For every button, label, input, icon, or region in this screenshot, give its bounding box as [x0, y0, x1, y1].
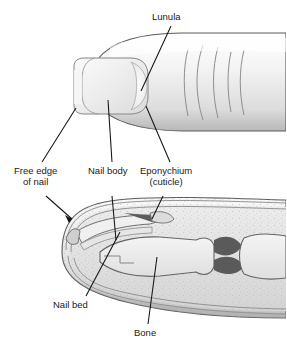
label-eponychium: Eponychium (cuticle): [140, 165, 192, 187]
leader-free-edge-top: [42, 108, 76, 162]
label-lunula: Lunula: [152, 11, 181, 22]
label-free-edge-line2: of nail: [14, 176, 57, 187]
label-nail-body: Nail body: [88, 165, 128, 176]
label-free-edge-line1: Free edge: [14, 165, 57, 176]
label-bone-text: Bone: [134, 327, 156, 338]
label-nail-body-text: Nail body: [88, 165, 128, 176]
label-free-edge-of-nail: Free edge of nail: [14, 165, 57, 187]
label-eponychium-line2: (cuticle): [140, 176, 192, 187]
free-edge-strip: [74, 70, 82, 104]
label-nail-bed-text: Nail bed: [53, 299, 88, 310]
leader-free-edge-section: [46, 196, 72, 219]
dorsal-view-group: [74, 33, 286, 146]
label-nail-bed: Nail bed: [53, 299, 88, 310]
sagittal-section-group: [62, 196, 286, 322]
middle-phalanx-bone: [240, 234, 287, 279]
label-eponychium-line1: Eponychium: [140, 165, 192, 176]
label-bone: Bone: [134, 327, 156, 338]
label-lunula-text: Lunula: [152, 11, 181, 22]
distal-phalanx-bone: [100, 237, 214, 276]
